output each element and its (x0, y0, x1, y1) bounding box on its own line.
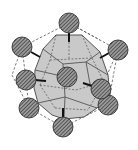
diagram-canvas (0, 0, 138, 150)
sphere-center (57, 67, 77, 87)
sphere-lower-left (19, 98, 39, 118)
sphere-upper-left (12, 37, 32, 57)
sphere-mid-left (16, 70, 36, 90)
sphere-upper-right (108, 40, 128, 60)
cluster-diagram (0, 0, 138, 150)
sphere-bottom (53, 117, 73, 137)
sphere-top (59, 13, 79, 33)
sphere-mid-right (91, 79, 111, 99)
